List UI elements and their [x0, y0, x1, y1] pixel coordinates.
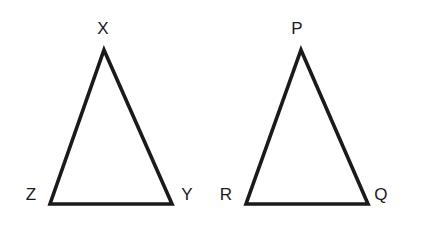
geometry-canvas: [0, 0, 427, 235]
vertex-label-z: Z: [26, 186, 37, 203]
vertex-label-q: Q: [374, 186, 387, 203]
vertex-label-x: X: [97, 20, 109, 37]
vertex-label-y: Y: [181, 186, 193, 203]
vertex-label-r: R: [220, 186, 232, 203]
vertex-label-p: P: [291, 20, 303, 37]
canvas-background: [0, 0, 427, 235]
geometry-figure: X Z Y P R Q: [0, 0, 427, 235]
